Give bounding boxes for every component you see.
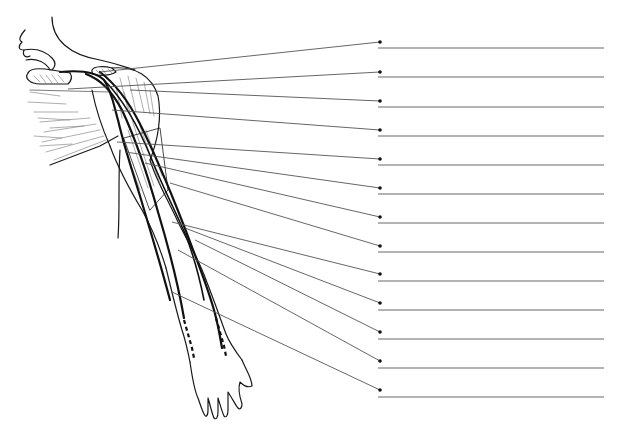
label-item	[112, 110, 604, 136]
arm-anatomy-diagram	[0, 0, 622, 432]
label-leaders	[68, 40, 604, 397]
leader-line	[112, 110, 380, 130]
leader-dot	[378, 128, 382, 132]
leader-dot	[378, 157, 382, 161]
label-item	[195, 240, 604, 339]
label-item	[145, 163, 604, 223]
leader-dot	[378, 359, 382, 363]
leader-line	[68, 72, 380, 89]
leader-dot	[378, 301, 382, 305]
leader-line	[195, 240, 380, 332]
leader-line	[185, 228, 380, 303]
leader-dot	[378, 99, 382, 103]
leader-dot	[378, 215, 382, 219]
neck-outline	[52, 17, 135, 70]
label-item	[172, 292, 604, 397]
leader-dot	[378, 70, 382, 74]
label-item	[185, 228, 604, 310]
leader-line	[130, 90, 380, 101]
leader-line	[172, 222, 380, 274]
leader-dot	[378, 330, 382, 334]
leader-dot	[378, 388, 382, 392]
nerves	[60, 71, 222, 348]
leader-dot	[378, 40, 382, 44]
leader-line	[125, 152, 380, 188]
leader-line	[172, 292, 380, 390]
hand	[190, 360, 252, 419]
leader-dot	[378, 186, 382, 190]
label-item	[178, 250, 604, 368]
clavicle-region	[19, 30, 116, 84]
leader-dot	[378, 272, 382, 276]
leader-dot	[378, 244, 382, 248]
label-item	[100, 40, 604, 72]
leader-line	[100, 42, 380, 72]
pectoral-muscle-hatching	[28, 90, 118, 165]
label-item	[130, 90, 604, 107]
